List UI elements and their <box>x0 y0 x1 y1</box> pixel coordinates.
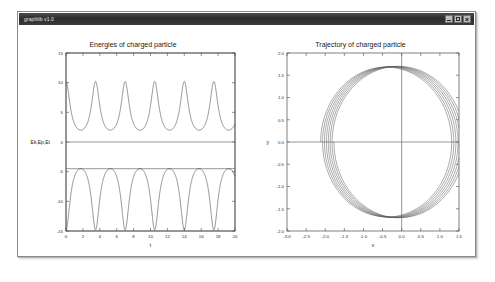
y-tick-label: 1.5 <box>278 73 285 78</box>
y-tick-label: 10 <box>58 80 63 85</box>
y-tick-label: 0.5 <box>278 118 285 123</box>
x-tick-label: 2 <box>82 234 85 239</box>
series-Ep <box>66 169 235 230</box>
y-tick-label: 1.0 <box>278 95 285 100</box>
x-tick-label: -1.5 <box>341 234 349 239</box>
y-tick-label: 2.0 <box>278 51 285 56</box>
x-tick-label: 20 <box>233 234 238 239</box>
y-tick-label: -5 <box>59 169 63 174</box>
window-client-area: Energies of charged particle 02468101214… <box>19 25 474 255</box>
y-tick-label: -2.0 <box>276 229 284 234</box>
x-tick-label: 10 <box>148 234 153 239</box>
x-tick-label: 16 <box>199 234 204 239</box>
x-tick-label: 14 <box>182 234 187 239</box>
y-tick-label: 0.0 <box>278 140 285 145</box>
x-tick-label: 0 <box>65 234 68 239</box>
window-title: graphlib v1.0 <box>21 13 54 25</box>
x-tick-label: -2.5 <box>302 234 310 239</box>
x-tick-label: 0.0 <box>399 234 406 239</box>
x-axis-label: t <box>150 242 152 248</box>
screenshot-root: graphlib v1.0 Energies of charged partic… <box>0 0 495 282</box>
x-tick-label: 18 <box>216 234 221 239</box>
y-tick-label: 0 <box>61 140 64 145</box>
x-tick-label: 0.5 <box>418 234 425 239</box>
x-tick-label: -1.0 <box>360 234 368 239</box>
x-axis-label: x <box>372 242 375 248</box>
y-tick-label: -1.5 <box>276 207 284 212</box>
application-window: graphlib v1.0 Energies of charged partic… <box>17 11 476 257</box>
x-tick-label: -2.0 <box>321 234 329 239</box>
y-tick-label: -0.5 <box>276 162 284 167</box>
x-tick-label: -0.5 <box>379 234 387 239</box>
x-tick-label: 1.0 <box>437 234 444 239</box>
window-titlebar[interactable]: graphlib v1.0 <box>19 13 474 25</box>
series-Ek <box>66 81 235 130</box>
window-controls <box>445 15 472 23</box>
close-button-icon[interactable] <box>463 15 471 23</box>
x-tick-label: 12 <box>165 234 170 239</box>
x-tick-label: 1.5 <box>456 234 463 239</box>
x-tick-label: 6 <box>115 234 118 239</box>
chart-energies-canvas: 02468101214161820151050-5-10-15tEk,Ep,Et <box>19 25 247 258</box>
x-tick-label: 8 <box>132 234 135 239</box>
x-tick-label: 4 <box>99 234 102 239</box>
x-tick-label: -3.0 <box>283 234 291 239</box>
y-tick-label: -10 <box>57 199 64 204</box>
chart-energies: Energies of charged particle 02468101214… <box>19 25 247 255</box>
chart-trajectory-canvas: -3.0-2.5-2.0-1.5-1.0-0.50.00.51.01.52.01… <box>247 25 474 258</box>
minimize-button-icon[interactable] <box>445 15 453 23</box>
y-axis-label: Ek,Ep,Et <box>31 139 51 145</box>
y-tick-label: 15 <box>58 51 63 56</box>
chart-trajectory: Trajectory of charged particle -3.0-2.5-… <box>247 25 474 255</box>
y-tick-label: 5 <box>61 110 64 115</box>
y-axis-label: y <box>267 139 270 145</box>
y-tick-label: -15 <box>57 229 64 234</box>
maximize-button-icon[interactable] <box>454 15 462 23</box>
y-tick-label: -1.0 <box>276 184 284 189</box>
